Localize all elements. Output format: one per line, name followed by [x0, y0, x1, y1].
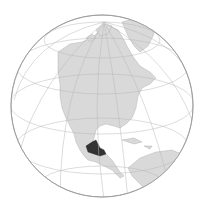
globe-map [0, 0, 200, 212]
